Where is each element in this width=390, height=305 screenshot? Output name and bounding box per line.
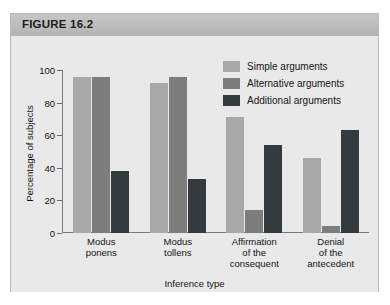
x-axis-category-label-line: ponens [63,247,140,258]
y-axis-tick-mark [57,233,62,234]
y-axis-tick-mark [57,135,62,136]
x-axis-category-label-line: of the [216,247,293,258]
y-axis-tick-label: 20 [33,195,55,206]
bar [92,77,110,233]
x-axis-category-label-line: Denial [293,236,370,247]
bar [322,226,340,233]
bar-groups [63,70,369,233]
bar [245,210,263,233]
figure-header-band: FIGURE 16.2 [11,14,378,36]
y-axis-tick-mark [57,103,62,104]
y-axis-tick-label: 60 [33,130,55,141]
x-axis-category-label-line: of the [293,247,370,258]
x-axis-category-label-line: Affirmation [216,236,293,247]
bar [188,179,206,233]
bar-group [63,70,140,233]
figure-number-label: FIGURE 16.2 [22,18,93,30]
bar [111,171,129,233]
x-axis-category-label: Affirmationof theconsequent [216,236,293,269]
y-axis-tick-mark [57,168,62,169]
x-axis-category-label: Modusponens [63,236,140,258]
x-axis-category-label-line: Modus [140,236,217,247]
y-axis-tick-label: 80 [33,97,55,108]
y-axis-tick-mark [57,200,62,201]
x-axis-category-label-line: tollens [140,247,217,258]
chart-plot-area: Simple argumentsAlternative argumentsAdd… [11,36,378,292]
bar [73,77,91,233]
bar [341,130,359,233]
x-axis-title: Inference type [11,278,378,289]
y-axis-tick-mark [57,70,62,71]
y-axis-tick-labels: 020406080100 [33,36,55,292]
bar-group [216,70,293,233]
y-axis-tick-label: 40 [33,162,55,173]
x-axis-category-label-line: antecedent [293,258,370,269]
x-axis-category-label: Modustollens [140,236,217,258]
bar [303,158,321,233]
bar [150,83,168,233]
bar [264,145,282,233]
x-axis-category-label-line: consequent [216,258,293,269]
y-axis-tick-label: 0 [33,228,55,239]
bar-group [140,70,217,233]
x-axis-category-label: Denialof theantecedent [293,236,370,269]
bar-group [293,70,370,233]
y-axis-tick-label: 100 [33,65,55,76]
bar [169,77,187,233]
figure-container: FIGURE 16.2 Simple argumentsAlternative … [10,13,379,292]
bar [226,117,244,233]
x-axis-category-label-line: Modus [63,236,140,247]
